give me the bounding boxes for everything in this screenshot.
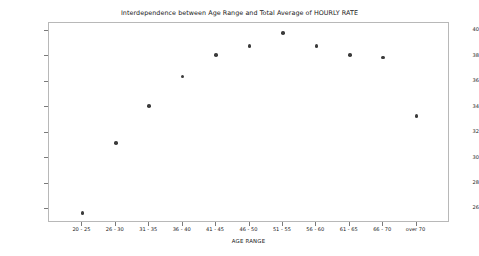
x-axis-ticks: 20 - 2526 - 3031 - 3536 - 4041 - 4546 - … bbox=[0, 0, 479, 256]
x-tick-mark bbox=[382, 222, 383, 226]
x-tick-mark bbox=[182, 222, 183, 226]
x-tick-mark bbox=[315, 222, 316, 226]
x-tick-mark bbox=[416, 222, 417, 226]
x-tick-mark bbox=[215, 222, 216, 226]
scatter-chart-figure: Interdependence between Age Range and To… bbox=[0, 0, 479, 256]
x-tick-mark bbox=[249, 222, 250, 226]
x-tick-mark bbox=[349, 222, 350, 226]
x-tick-mark bbox=[81, 222, 82, 226]
x-tick-mark bbox=[148, 222, 149, 226]
x-tick-mark bbox=[115, 222, 116, 226]
x-axis-label: AGE RANGE bbox=[48, 238, 449, 244]
x-tick-label: over 70 bbox=[386, 226, 446, 232]
x-tick-mark bbox=[282, 222, 283, 226]
